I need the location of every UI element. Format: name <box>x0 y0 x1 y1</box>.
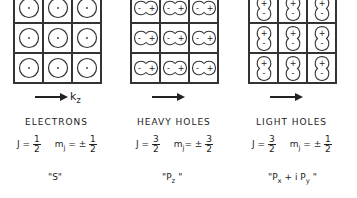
pxpy-orbital-cell: +- <box>307 0 336 23</box>
p-orbital-vertical-icon: +- <box>313 25 331 52</box>
p-orbital-horizontal-icon: -+ <box>162 59 188 77</box>
svg-text:+: + <box>177 4 184 13</box>
p-orbital-vertical-icon: +- <box>255 55 273 82</box>
pz-orbital-cell: -+ <box>160 53 189 83</box>
pxpy-orbital-cell: +- <box>278 0 307 23</box>
svg-text:+: + <box>289 58 296 67</box>
pz-orbital-cell: -+ <box>189 0 218 23</box>
svg-text:+: + <box>289 28 296 37</box>
svg-text:+: + <box>206 4 213 13</box>
svg-text:+: + <box>148 34 155 43</box>
svg-text:-: - <box>138 4 141 13</box>
s-orbital-cell <box>72 23 101 53</box>
svg-text:-: - <box>262 39 265 48</box>
svg-text:+: + <box>148 4 155 13</box>
p-orbital-horizontal-icon: -+ <box>133 59 159 77</box>
pz-orbital-cell: -+ <box>189 23 218 53</box>
p-orbital-horizontal-icon: -+ <box>191 29 217 47</box>
p-orbital-vertical-icon: +- <box>255 0 273 22</box>
p-orbital-horizontal-icon: -+ <box>133 29 159 47</box>
mj-value: mj= ± 32 <box>174 135 213 154</box>
s-orbital-cell <box>14 0 43 23</box>
p-orbital-horizontal-icon: -+ <box>191 0 217 17</box>
s-orbital-cell <box>43 0 72 23</box>
svg-text:+: + <box>260 58 267 67</box>
pz-orbital-cell: -+ <box>131 0 160 23</box>
svg-text:-: - <box>262 9 265 18</box>
s-orbital-icon <box>18 0 40 19</box>
heavy-holes-quantum-numbers: J = 32 mj= ± 32 <box>136 135 213 154</box>
s-orbital-cell <box>43 23 72 53</box>
svg-text:-: - <box>196 4 199 13</box>
svg-text:-: - <box>167 34 170 43</box>
s-orbital-icon <box>76 0 98 19</box>
s-orbital-cell <box>43 53 72 83</box>
svg-text:+: + <box>318 28 325 37</box>
heavy-holes-orbital-label: "Pz " <box>162 172 182 185</box>
pz-orbital-cell: -+ <box>160 23 189 53</box>
mj-value: mj = ± 12 <box>55 135 97 154</box>
p-orbital-horizontal-icon: -+ <box>133 0 159 17</box>
svg-text:-: - <box>320 9 323 18</box>
mj-value: mj = ± 12 <box>290 135 332 154</box>
s-orbital-icon <box>18 57 40 79</box>
svg-text:+: + <box>260 0 267 7</box>
svg-text:+: + <box>177 64 184 73</box>
p-orbital-vertical-icon: +- <box>284 55 302 82</box>
pz-orbital-cell: -+ <box>189 53 218 83</box>
p-orbital-horizontal-icon: -+ <box>191 59 217 77</box>
p-orbital-vertical-icon: +- <box>255 25 273 52</box>
svg-text:-: - <box>320 39 323 48</box>
electrons-orbital-grid <box>13 0 102 84</box>
s-orbital-cell <box>14 23 43 53</box>
svg-text:-: - <box>291 9 294 18</box>
p-orbital-horizontal-icon: -+ <box>162 29 188 47</box>
electrons-title: ELECTRONS <box>25 117 88 127</box>
s-orbital-cell <box>72 53 101 83</box>
j-value: J = 32 <box>136 135 160 154</box>
s-orbital-icon <box>47 27 69 49</box>
s-orbital-icon <box>47 0 69 19</box>
svg-text:+: + <box>260 28 267 37</box>
svg-text:+: + <box>148 64 155 73</box>
pxpy-orbital-cell: +- <box>278 53 307 83</box>
s-orbital-cell <box>14 53 43 83</box>
svg-text:+: + <box>206 64 213 73</box>
svg-text:+: + <box>177 34 184 43</box>
pxpy-orbital-cell: +- <box>307 53 336 83</box>
electrons-orbital-label: "S" <box>48 172 62 182</box>
s-orbital-icon <box>18 27 40 49</box>
pxpy-orbital-cell: +- <box>249 0 278 23</box>
svg-text:-: - <box>138 64 141 73</box>
light-holes-title: LIGHT HOLES <box>256 117 327 127</box>
pxpy-orbital-cell: +- <box>249 23 278 53</box>
pz-orbital-cell: -+ <box>160 0 189 23</box>
j-value: J = 12 <box>17 135 41 154</box>
svg-text:+: + <box>289 0 296 7</box>
svg-text:-: - <box>320 69 323 78</box>
pz-orbital-cell: -+ <box>131 23 160 53</box>
heavy-holes-title: HEAVY HOLES <box>137 117 211 127</box>
electrons-quantum-numbers: J = 12 mj = ± 12 <box>17 135 97 154</box>
light-holes-orbital-grid: +- +- +- +- +- +- +- +- +- <box>248 0 337 84</box>
light-holes-orbital-label: "Px + i Py " <box>268 172 317 185</box>
svg-text:-: - <box>196 34 199 43</box>
p-orbital-vertical-icon: +- <box>313 0 331 22</box>
p-orbital-horizontal-icon: -+ <box>162 0 188 17</box>
pxpy-orbital-cell: +- <box>249 53 278 83</box>
kz-arrow-icon <box>270 92 302 102</box>
svg-text:-: - <box>167 4 170 13</box>
pxpy-orbital-cell: +- <box>307 23 336 53</box>
svg-text:+: + <box>318 58 325 67</box>
light-holes-quantum-numbers: J = 32 mj = ± 12 <box>252 135 332 154</box>
j-value: J = 32 <box>252 135 276 154</box>
kz-label: kz <box>70 90 81 105</box>
s-orbital-cell <box>72 0 101 23</box>
heavy-holes-orbital-grid: -+ -+ -+ -+ -+ -+ -+ -+ -+ <box>130 0 219 84</box>
pxpy-orbital-cell: +- <box>278 23 307 53</box>
svg-text:+: + <box>318 0 325 7</box>
svg-text:-: - <box>291 39 294 48</box>
s-orbital-icon <box>76 27 98 49</box>
svg-text:-: - <box>262 69 265 78</box>
p-orbital-vertical-icon: +- <box>284 0 302 22</box>
